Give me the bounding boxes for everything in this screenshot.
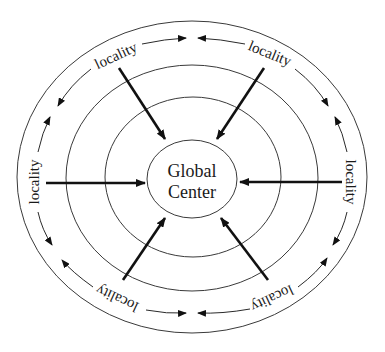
global-center-label-line1: Global	[168, 161, 217, 181]
locality-label-top-right: locality	[246, 38, 294, 70]
locality-label-left: locality	[26, 159, 42, 204]
arrow-bottom-left-to-lower-left	[62, 260, 93, 287]
arrow-top-left-to-top	[142, 38, 186, 44]
spoke-bottom-left	[123, 218, 165, 280]
arrow-bottom-right-to-lower-right	[298, 258, 327, 287]
arrow-left-to-lower-left	[38, 212, 52, 245]
arrow-right-to-lower-right	[333, 212, 347, 245]
arrow-right-to-upper-right	[335, 117, 347, 152]
global-center-label-line2: Center	[168, 182, 216, 202]
locality-label-right: locality	[343, 160, 359, 205]
locality-label-bottom-right: locality	[248, 282, 296, 316]
arrow-bottom-left-to-bottom	[146, 310, 186, 313]
arrow-top-left-to-upper-left	[58, 69, 91, 106]
arrow-top-right-to-upper-right	[295, 69, 328, 106]
spoke-top-right	[217, 68, 264, 139]
arrow-top-right-to-top	[198, 38, 245, 44]
arrow-bottom-right-to-bottom	[198, 309, 250, 313]
global-center-diagram: locality locality locality locality loca…	[0, 0, 385, 352]
arrow-left-to-upper-left	[38, 117, 50, 152]
locality-label-top-left: locality	[92, 39, 140, 73]
